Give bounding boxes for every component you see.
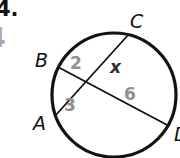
geometry-problem-figure: 4. 4 C B A D 2 x 3 6 [0, 0, 180, 158]
point-label-A: A [31, 112, 46, 134]
intersecting-chords-diagram: C B A D 2 x 3 6 [0, 0, 180, 158]
segment-unknown-x: x [109, 57, 122, 77]
point-label-C: C [130, 10, 144, 32]
point-label-D: D [174, 123, 180, 145]
segment-value-2: 2 [70, 53, 82, 73]
point-label-B: B [35, 49, 48, 71]
segment-value-6: 6 [124, 84, 136, 104]
segment-value-3: 3 [64, 95, 76, 115]
